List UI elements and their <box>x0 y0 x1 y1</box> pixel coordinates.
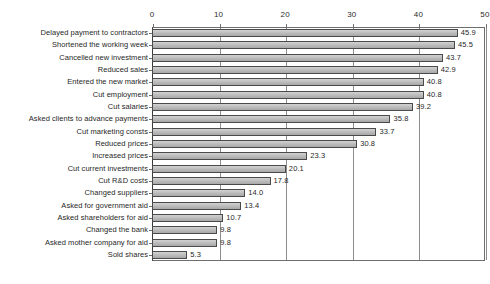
category-tick <box>149 255 152 256</box>
category-label: Cut marketing consts <box>77 127 148 136</box>
bar <box>152 115 390 123</box>
category-tick <box>149 144 152 145</box>
bar <box>152 128 376 136</box>
bar-value-label: 42.9 <box>441 65 456 74</box>
category-label: Cut current investments <box>68 164 148 173</box>
bar-value-label: 45.5 <box>458 40 473 49</box>
x-axis-tick-label: 10 <box>214 10 223 19</box>
category-tick <box>149 132 152 133</box>
category-label: Changed the bank <box>86 225 148 234</box>
bar-value-label: 40.8 <box>427 77 442 86</box>
bar-value-label: 39.2 <box>416 102 431 111</box>
category-label: Asked shareholders for aid <box>57 213 148 222</box>
bar-value-label: 13.4 <box>244 201 259 210</box>
bar <box>152 239 217 247</box>
bar <box>152 54 443 62</box>
bar <box>152 202 241 210</box>
bar <box>152 103 413 111</box>
axis-tick <box>486 24 487 28</box>
bar <box>152 165 286 173</box>
category-tick <box>149 230 152 231</box>
bar-value-label: 14.0 <box>248 188 263 197</box>
bar-value-label: 10.7 <box>226 213 241 222</box>
bar <box>152 29 458 37</box>
category-tick <box>149 119 152 120</box>
x-axis-tick-label: 50 <box>480 10 489 19</box>
category-label: Asked mother company for aid <box>45 238 148 247</box>
category-label: Reduced prices <box>95 139 148 148</box>
bar <box>152 152 307 160</box>
category-axis-labels: Delayed payment to contractorsShortened … <box>0 27 152 261</box>
bar-value-label: 40.8 <box>427 90 442 99</box>
category-label: Sold shares <box>108 250 148 259</box>
category-tick <box>149 193 152 194</box>
bar <box>152 91 424 99</box>
category-tick <box>149 70 152 71</box>
category-tick <box>149 181 152 182</box>
bar-value-label: 9.8 <box>220 238 231 247</box>
bar <box>152 189 245 197</box>
bar-value-label: 23.3 <box>310 151 325 160</box>
bar-value-label: 45.9 <box>461 28 476 37</box>
bar-value-label: 30.8 <box>360 139 375 148</box>
bar <box>152 140 357 148</box>
category-label: Shortened the working week <box>52 40 148 49</box>
category-label: Asked for government aid <box>61 201 148 210</box>
category-label: Cut employment <box>93 90 148 99</box>
category-label: Cut R&D costs <box>98 176 148 185</box>
bar-value-label: 20.1 <box>289 164 304 173</box>
bars-container: 45.945.543.742.940.840.839.235.833.730.8… <box>152 27 485 261</box>
category-tick <box>149 95 152 96</box>
category-tick <box>149 206 152 207</box>
category-label: Entered the new market <box>67 77 148 86</box>
category-tick <box>149 82 152 83</box>
x-axis-tick-label: 40 <box>414 10 423 19</box>
bar <box>152 177 271 185</box>
bar-value-label: 9.8 <box>220 225 231 234</box>
category-label: Asked clients to advance payments <box>29 114 148 123</box>
category-tick <box>149 45 152 46</box>
category-tick <box>149 243 152 244</box>
category-label: Changed suppliers <box>85 188 148 197</box>
x-axis-tick-label: 0 <box>150 10 155 19</box>
category-tick <box>149 107 152 108</box>
bar-value-label: 17.8 <box>274 176 289 185</box>
bar-value-label: 33.7 <box>379 127 394 136</box>
category-tick <box>149 33 152 34</box>
category-tick <box>149 169 152 170</box>
bar <box>152 226 217 234</box>
bar-value-label: 35.8 <box>393 114 408 123</box>
x-axis-tick-label: 20 <box>281 10 290 19</box>
bar-value-label: 43.7 <box>446 53 461 62</box>
bar <box>152 251 187 259</box>
category-tick <box>149 58 152 59</box>
bar <box>152 78 424 86</box>
category-label: Reduced sales <box>98 65 148 74</box>
bar <box>152 214 223 222</box>
bar <box>152 41 455 49</box>
bar <box>152 66 438 74</box>
category-tick <box>149 218 152 219</box>
category-label: Increased prices <box>92 151 148 160</box>
bar-value-label: 5.3 <box>190 250 201 259</box>
category-label: Delayed payment to contractors <box>41 28 148 37</box>
gridline <box>486 28 487 260</box>
category-tick <box>149 156 152 157</box>
category-label: Cancelled new investment <box>59 53 148 62</box>
category-label: Cut salaries <box>108 102 148 111</box>
x-axis-tick-label: 30 <box>347 10 356 19</box>
